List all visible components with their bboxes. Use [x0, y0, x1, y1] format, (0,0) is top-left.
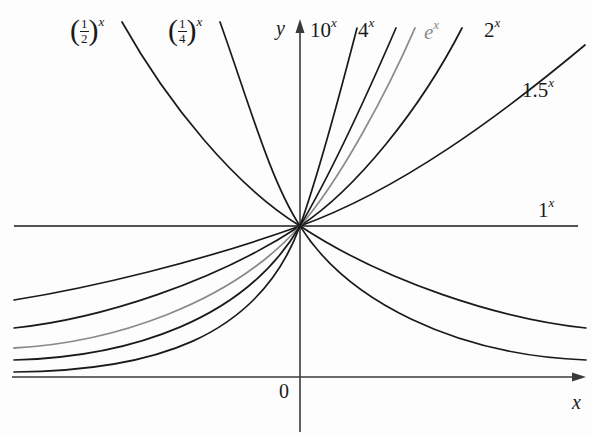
curve-label-ten-power-x: 10x: [310, 18, 337, 41]
curve-label-e-power-x: ex: [424, 20, 439, 43]
curve-label-four-power-x: 4x: [358, 18, 374, 41]
two-base: 2: [484, 18, 495, 42]
half-close-paren: ): [89, 15, 99, 45]
quarter-denominator: 4: [178, 31, 187, 46]
curve-label-one-power-x: 1x: [538, 198, 554, 221]
half-open-paren: (: [70, 15, 80, 45]
half-denominator: 2: [80, 31, 89, 46]
x-axis-label: x: [572, 392, 581, 412]
four-base: 4: [358, 18, 369, 42]
two-exponent: x: [495, 15, 501, 30]
y-axis-label: y: [276, 18, 285, 38]
quarter-open-paren: (: [168, 15, 178, 45]
origin-label: 0: [279, 381, 289, 401]
onefive-base: 1.5: [522, 78, 548, 102]
curve-label-half-power-x: (12)x: [70, 16, 104, 46]
one-exponent: x: [549, 195, 555, 210]
quarter-exponent: x: [197, 14, 203, 29]
curve-quarter-power-x: [220, 22, 586, 360]
euler-exponent: x: [433, 17, 439, 32]
half-exponent: x: [99, 14, 105, 29]
curve-label-onefive-power-x: 1.5x: [522, 78, 554, 101]
curve-e-power-x: [14, 28, 415, 348]
four-exponent: x: [369, 15, 375, 30]
exponential-functions-figure: (12)x (14)x y 10x 4x ex 2x 1.5x 1x 0 x: [0, 0, 592, 434]
y-axis-arrowhead: [296, 19, 305, 33]
quarter-numerator: 1: [178, 17, 187, 31]
ten-base: 10: [310, 18, 331, 42]
curve-label-quarter-power-x: (14)x: [168, 16, 202, 46]
ten-exponent: x: [331, 15, 337, 30]
half-numerator: 1: [80, 17, 89, 31]
curve-label-two-power-x: 2x: [484, 18, 500, 41]
quarter-close-paren: ): [187, 15, 197, 45]
curve-four-power-x: [14, 28, 396, 360]
one-base: 1: [538, 198, 549, 222]
euler-base: e: [424, 20, 433, 44]
graph-canvas: [0, 0, 592, 434]
onefive-exponent: x: [548, 75, 554, 90]
x-axis-arrowhead: [572, 373, 586, 382]
